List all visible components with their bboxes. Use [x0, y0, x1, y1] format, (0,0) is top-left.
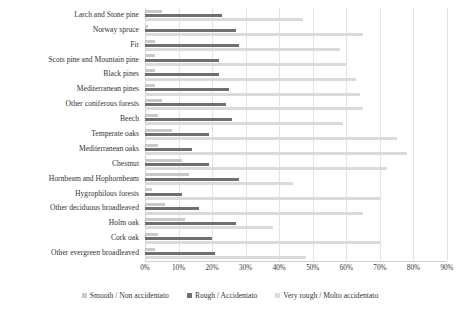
- category-label: Mediterranean oaks: [79, 145, 139, 153]
- bar-smooth: [145, 114, 158, 117]
- forest-roughness-bar-chart: Larch and Stone pineNorway spruceFirScot…: [0, 0, 460, 321]
- bar-row: [145, 97, 447, 112]
- plot-area: [145, 8, 447, 261]
- bar-veryrough: [145, 107, 363, 110]
- bar-veryrough: [145, 78, 356, 81]
- x-axis-line: [145, 261, 447, 262]
- bar-veryrough: [145, 256, 306, 259]
- legend-swatch-icon: [275, 293, 280, 298]
- bar-row: [145, 112, 447, 127]
- category-label: Other coniferous forests: [66, 100, 139, 108]
- bar-veryrough: [145, 122, 343, 125]
- x-tick-label: 40%: [273, 263, 286, 273]
- bar-veryrough: [145, 137, 397, 140]
- bar-row: [145, 68, 447, 83]
- category-label: Chestnut: [112, 160, 139, 168]
- bar-veryrough: [145, 33, 363, 36]
- bar-smooth: [145, 203, 165, 206]
- legend-label: Smooth / Non accidentato: [90, 291, 169, 300]
- legend-item-rough[interactable]: Rough / Accidentato: [187, 291, 257, 300]
- bar-smooth: [145, 69, 155, 72]
- bar-row: [145, 53, 447, 68]
- bar-rough: [145, 148, 192, 151]
- bar-rough: [145, 118, 232, 121]
- legend-label: Rough / Accidentato: [195, 291, 257, 300]
- category-label: Temperate oaks: [91, 130, 139, 138]
- x-tick-label: 50%: [306, 263, 319, 273]
- bar-row: [145, 216, 447, 231]
- x-tick-label: 10%: [172, 263, 185, 273]
- category-axis-labels: Larch and Stone pineNorway spruceFirScot…: [0, 8, 142, 261]
- bar-veryrough: [145, 197, 380, 200]
- bar-row: [145, 172, 447, 187]
- bar-rough: [145, 237, 212, 240]
- category-label: Black pines: [103, 70, 139, 78]
- x-tick-label: 0%: [140, 263, 150, 273]
- x-tick-label: 20%: [206, 263, 219, 273]
- bar-row: [145, 127, 447, 142]
- bar-row: [145, 142, 447, 157]
- x-tick-label: 60%: [340, 263, 353, 273]
- bar-rough: [145, 222, 236, 225]
- bar-smooth: [145, 84, 155, 87]
- legend-item-smooth[interactable]: Smooth / Non accidentato: [82, 291, 169, 300]
- x-tick-label: 70%: [373, 263, 386, 273]
- bar-rough: [145, 207, 199, 210]
- bar-smooth: [145, 233, 158, 236]
- bar-veryrough: [145, 152, 407, 155]
- bar-smooth: [145, 129, 172, 132]
- x-tick-label: 90%: [440, 263, 453, 273]
- bar-smooth: [145, 99, 162, 102]
- legend-label: Very rough / Molto accidentato: [283, 291, 378, 300]
- bar-smooth: [145, 144, 158, 147]
- bar-rows: [145, 8, 447, 261]
- bar-veryrough: [145, 93, 360, 96]
- bar-rough: [145, 163, 209, 166]
- bar-veryrough: [145, 241, 380, 244]
- legend-swatch-icon: [82, 293, 87, 298]
- category-label: Cork oak: [111, 234, 139, 242]
- bar-row: [145, 23, 447, 38]
- category-label: Hornbeam and Hophornbeam: [49, 175, 139, 183]
- category-label: Beech: [120, 115, 139, 123]
- chart-legend: Smooth / Non accidentatoRough / Accident…: [0, 291, 460, 300]
- bar-veryrough: [145, 167, 387, 170]
- category-label: Hygrophilous forests: [75, 190, 139, 198]
- bar-rough: [145, 252, 215, 255]
- bar-rough: [145, 29, 236, 32]
- bar-smooth: [145, 218, 185, 221]
- x-tick-label: 80%: [407, 263, 420, 273]
- category-label: Norway spruce: [93, 26, 139, 34]
- category-label: Scots pine and Mountain pine: [48, 56, 139, 64]
- bar-veryrough: [145, 48, 340, 51]
- legend-swatch-icon: [187, 293, 192, 298]
- x-tick-label: 30%: [239, 263, 252, 273]
- bar-veryrough: [145, 18, 303, 21]
- bar-rough: [145, 103, 226, 106]
- bar-smooth: [145, 173, 189, 176]
- bar-smooth: [145, 248, 155, 251]
- bar-row: [145, 201, 447, 216]
- gridline-90: [447, 8, 448, 261]
- category-label: Other deciduous broadleaved: [50, 204, 139, 212]
- category-label: Fir: [130, 41, 139, 49]
- bar-veryrough: [145, 63, 346, 66]
- bar-rough: [145, 193, 182, 196]
- bar-rough: [145, 133, 209, 136]
- legend-item-veryrough[interactable]: Very rough / Molto accidentato: [275, 291, 378, 300]
- x-axis-tick-labels: 0%10%20%30%40%50%60%70%80%90%: [145, 263, 447, 275]
- bar-rough: [145, 59, 219, 62]
- bar-veryrough: [145, 212, 363, 215]
- bar-row: [145, 157, 447, 172]
- bar-smooth: [145, 25, 148, 28]
- category-label: Other evergreen broadleaved: [51, 249, 139, 257]
- bar-veryrough: [145, 182, 293, 185]
- bar-rough: [145, 178, 239, 181]
- bar-rough: [145, 14, 222, 17]
- bar-row: [145, 187, 447, 202]
- bar-row: [145, 82, 447, 97]
- bar-rough: [145, 44, 239, 47]
- bar-veryrough: [145, 226, 273, 229]
- category-label: Holm oak: [109, 219, 139, 227]
- bar-smooth: [145, 40, 155, 43]
